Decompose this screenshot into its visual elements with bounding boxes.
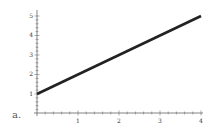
y-tick-label: 2 xyxy=(29,70,33,77)
x-tick-label: 3 xyxy=(158,117,162,124)
y-tick-labels: 1 2 3 4 5 xyxy=(29,12,33,97)
x-tick-label: 4 xyxy=(199,117,203,124)
panel-label: a. xyxy=(12,109,21,120)
y-tick-label: 5 xyxy=(29,12,33,19)
line-chart: 1 2 3 4 1 2 3 4 5 a. xyxy=(0,0,211,138)
minor-ticks xyxy=(35,16,202,116)
x-tick-label: 2 xyxy=(117,117,121,124)
y-tick-label: 3 xyxy=(29,51,33,58)
x-tick-label: 1 xyxy=(76,117,80,124)
y-tick-label: 4 xyxy=(29,31,33,38)
x-tick-labels: 1 2 3 4 xyxy=(76,117,203,124)
y-tick-label: 1 xyxy=(29,90,33,97)
data-series-line xyxy=(37,16,201,94)
